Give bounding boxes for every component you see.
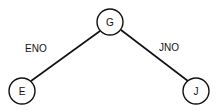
node-e: E <box>9 78 35 104</box>
node-j-label: J <box>194 86 199 97</box>
edge-label-jno: JNO <box>159 42 179 53</box>
node-g-label: G <box>106 17 114 28</box>
node-g: G <box>97 9 123 35</box>
edge-g-j <box>121 30 188 81</box>
tree-diagram: ENO JNO G E J <box>0 0 220 112</box>
edge-label-eno: ENO <box>25 43 47 54</box>
edge-g-e <box>31 31 100 81</box>
node-j: J <box>183 78 209 104</box>
node-e-label: E <box>19 86 26 97</box>
